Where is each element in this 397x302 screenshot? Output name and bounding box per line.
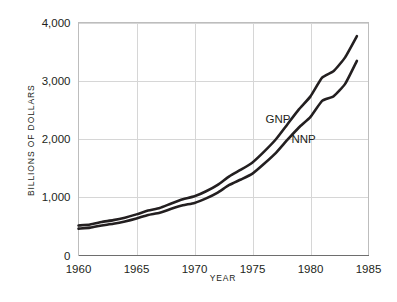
series-label-gnp: GNP — [266, 113, 291, 125]
y-tick-label: 3,000 — [42, 75, 71, 87]
x-tick-label: 1970 — [182, 263, 208, 275]
x-axis-title: YEAR — [210, 273, 237, 283]
gnp-nnp-line-chart: 01,0002,0003,0004,000 196019651970197519… — [0, 0, 397, 302]
x-tick-label: 1980 — [298, 263, 324, 275]
y-tick-label: 2,000 — [42, 133, 71, 145]
x-tick-label: 1975 — [240, 263, 266, 275]
y-tick-label: 0 — [64, 250, 70, 262]
y-tick-label: 1,000 — [42, 191, 71, 203]
x-tick-label: 1965 — [124, 263, 150, 275]
y-tick-label: 4,000 — [42, 17, 71, 29]
y-axis-title: BILLIONS OF DOLLARS — [26, 84, 36, 196]
chart-background — [0, 0, 397, 302]
x-tick-label: 1985 — [356, 263, 382, 275]
x-tick-label: 1960 — [66, 263, 92, 275]
chart-figure: 01,0002,0003,0004,000 196019651970197519… — [0, 0, 397, 302]
series-label-nnp: NNP — [291, 133, 316, 145]
